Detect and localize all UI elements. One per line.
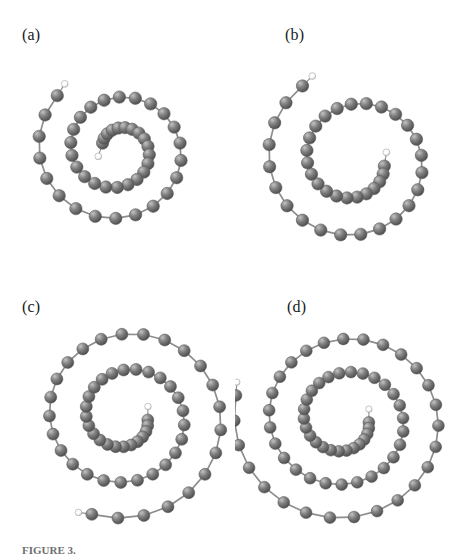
carbon-atom [416,166,428,178]
carbon-atom [373,223,385,235]
carbon-atom [355,228,367,240]
carbon-atom [290,464,302,476]
carbon-atom [138,509,150,521]
carbon-atom [118,364,130,376]
figure-caption: FIGURE 3. [22,544,76,556]
carbon-atom [263,404,275,416]
carbon-atom [348,511,360,523]
molecule-d [235,272,470,544]
carbon-atom [394,400,406,412]
carbon-atom [433,420,445,432]
atom-group [43,328,226,524]
carbon-atom [281,200,293,212]
carbon-atom [369,372,381,384]
carbon-atom [164,381,176,393]
carbon-atom [318,337,330,349]
carbon-atom [169,447,181,459]
figure-caption-strip: FIGURE 3. [0,544,470,556]
carbon-atom [401,119,413,131]
carbon-atom [183,487,195,499]
carbon-atom [98,94,110,106]
carbon-atom [334,229,346,241]
carbon-atom [51,89,63,101]
carbon-atom [296,80,308,92]
carbon-atom [423,379,435,391]
carbon-atom [235,415,240,427]
carbon-atom [172,392,184,404]
carbon-atom [324,512,336,524]
figure-root: (a) (b) (c) (d) FIGURE 3. [0,0,470,556]
carbon-atom [110,212,122,224]
carbon-atom [300,507,312,519]
hydrogen-atom [61,80,68,87]
carbon-atom [410,133,422,145]
carbon-atom [71,161,83,173]
carbon-atom [285,356,297,368]
hydrogen-atom [145,403,152,410]
carbon-atom [409,479,421,491]
carbon-atom [144,98,156,110]
carbon-atom [98,475,110,487]
carbon-atom [320,477,332,489]
carbon-atom [81,468,93,480]
carbon-atom [177,405,189,417]
carbon-atom [422,461,434,473]
carbon-atom [62,356,74,368]
carbon-atom [337,333,349,345]
carbon-atom [243,462,255,474]
molecule-b [235,0,470,272]
carbon-atom [159,334,171,346]
hydrogen-atom [366,406,372,412]
carbon-atom [270,181,282,193]
carbon-atom [33,130,45,142]
carbon-atom [41,172,53,184]
carbon-atom [397,426,409,438]
atom-group [33,80,187,224]
carbon-atom [199,468,211,480]
molecule-a [0,0,235,272]
carbon-atom [67,123,79,135]
carbon-atom [168,121,180,133]
carbon-atom [304,472,316,484]
carbon-atom [161,187,173,199]
carbon-atom [85,101,97,113]
carbon-atom [266,387,278,399]
carbon-atom [34,152,46,164]
carbon-atom [74,111,86,123]
panel-d: (d) [235,272,470,544]
carbon-atom [210,447,222,459]
hydrogen-atom [75,509,82,516]
carbon-atom [130,363,142,375]
carbon-atom [39,109,51,121]
carbon-atom [95,333,107,345]
carbon-atom [310,120,322,132]
carbon-atom [100,181,112,193]
carbon-atom [263,161,275,173]
carbon-atom [147,468,159,480]
carbon-atom [170,172,182,184]
carbon-atom [43,410,55,422]
carbon-atom [116,328,128,340]
carbon-atom [176,433,188,445]
carbon-atom [319,110,331,122]
carbon-atom [379,379,391,391]
carbon-atom [345,98,357,110]
carbon-atom [411,362,423,374]
hydrogen-atom [383,149,390,156]
carbon-atom [129,92,141,104]
carbon-atom [77,343,89,355]
carbon-atom [174,137,186,149]
carbon-atom [389,108,401,120]
carbon-atom [162,501,174,513]
panel-c: (c) [0,272,235,544]
carbon-atom [129,209,141,221]
carbon-atom [65,136,77,148]
carbon-atom [315,224,327,236]
carbon-atom [160,459,172,471]
carbon-atom [403,199,415,211]
carbon-atom [371,505,383,517]
hydrogen-atom [95,153,102,160]
carbon-atom [178,419,190,431]
carbon-atom [137,328,149,340]
carbon-atom [378,462,390,474]
